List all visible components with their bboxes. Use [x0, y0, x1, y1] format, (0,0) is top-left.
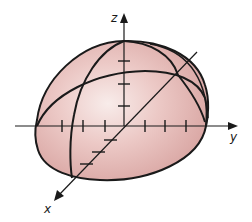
z-axis-arrow-icon [120, 13, 128, 23]
z-axis-label: z [111, 12, 117, 24]
ellipsoid-diagram [0, 0, 252, 222]
ellipsoid-surface [35, 41, 208, 180]
x-axis-label: x [44, 203, 51, 215]
y-axis-label: y [230, 131, 237, 143]
y-axis-arrow-icon [228, 122, 238, 130]
